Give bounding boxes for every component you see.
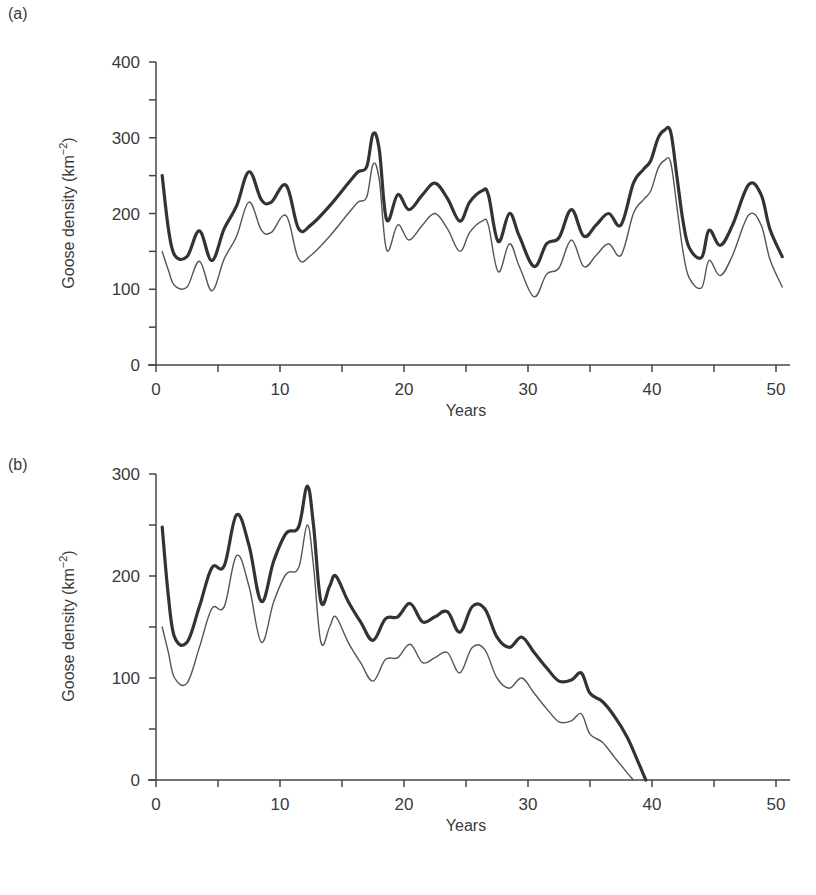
x-tick-label: 0 (151, 795, 160, 814)
y-tick-label: 0 (131, 356, 140, 375)
panel-a-label: (a) (8, 5, 28, 22)
panel-a: (a) 0100200300400 01020304050 Goose dens… (8, 5, 790, 419)
panel-a-y-axis-label: Goose density (km−2) (57, 137, 77, 288)
panel-a-upper-series-line (162, 127, 782, 266)
x-tick-label: 30 (519, 795, 538, 814)
x-tick-label: 10 (271, 795, 290, 814)
panel-b-y-axis-label: Goose density (km−2) (57, 550, 77, 701)
y-tick-label: 200 (112, 205, 140, 224)
x-tick-label: 10 (271, 380, 290, 399)
x-tick-label: 0 (151, 380, 160, 399)
panel-b: (b) 0100200300 01020304050 Goose density… (8, 456, 790, 834)
y-tick-label: 300 (112, 129, 140, 148)
x-tick-label: 50 (767, 380, 786, 399)
panel-b-x-axis-label: Years (446, 817, 486, 834)
panel-a-x-axis-label: Years (446, 402, 486, 419)
panel-b-y-axis: 0100200300 (112, 465, 156, 790)
panel-a-x-axis: 01020304050 (148, 365, 790, 399)
y-tick-label: 300 (112, 465, 140, 484)
x-tick-label: 20 (395, 795, 414, 814)
x-tick-label: 30 (519, 380, 538, 399)
y-tick-label: 0 (131, 771, 140, 790)
x-tick-label: 40 (643, 380, 662, 399)
figure: (a) 0100200300400 01020304050 Goose dens… (0, 0, 816, 895)
panel-b-x-axis: 01020304050 (148, 780, 790, 814)
y-tick-label: 400 (112, 53, 140, 72)
panel-b-label: (b) (8, 456, 28, 473)
panel-a-y-axis: 0100200300400 (112, 53, 156, 375)
x-tick-label: 50 (767, 795, 786, 814)
x-tick-label: 40 (643, 795, 662, 814)
panel-b-lower-series-line (162, 525, 633, 780)
x-tick-label: 20 (395, 380, 414, 399)
y-tick-label: 100 (112, 669, 140, 688)
panel-b-upper-series-line (162, 486, 646, 780)
y-tick-label: 200 (112, 567, 140, 586)
y-tick-label: 100 (112, 280, 140, 299)
